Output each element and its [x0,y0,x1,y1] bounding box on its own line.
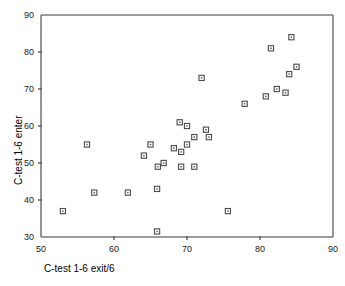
x-axis-ticks: 5060708090 [36,236,338,254]
marker-center [173,148,174,149]
data-point-marker [203,127,208,132]
y-tick-label: 30 [24,232,34,242]
marker-center [150,144,151,145]
scatter-chart-figure: 30405060708090 5060708090 C-test 1-6 ent… [0,0,345,286]
data-point-marker [184,142,189,147]
marker-center [289,74,290,75]
marker-center [285,92,286,93]
data-point-marker [283,90,288,95]
data-point-marker [263,94,268,99]
marker-center [296,66,297,67]
scatter-plot-canvas: 30405060708090 5060708090 C-test 1-6 ent… [0,0,345,286]
data-point-marker [287,72,292,77]
data-point-marker [289,35,294,40]
marker-center [180,151,181,152]
data-point-marker [92,190,97,195]
marker-center [156,188,157,189]
x-axis-title: C-test 1-6 exit/6 [44,263,115,274]
y-tick-label: 80 [24,47,34,57]
y-tick-label: 60 [24,121,34,131]
x-tick-label: 80 [255,244,265,254]
data-point-marker [268,46,273,51]
x-tick-label: 70 [182,244,192,254]
y-axis-title: C-test 1-6 enter [13,115,24,185]
marker-center [86,144,87,145]
data-point-marker [294,64,299,69]
data-point-marker [192,135,197,140]
data-point-marker [155,164,160,169]
data-point-marker [154,186,159,191]
marker-center [227,210,228,211]
data-point-marker [179,149,184,154]
data-point-marker [242,101,247,106]
data-point-marker [171,146,176,151]
data-point-marker [192,164,197,169]
data-point-group [60,35,299,234]
y-tick-label: 40 [24,195,34,205]
marker-center [244,103,245,104]
data-point-marker [154,229,159,234]
marker-center [291,37,292,38]
marker-center [208,136,209,137]
data-point-marker [84,142,89,147]
data-point-marker [206,135,211,140]
marker-center [62,210,63,211]
data-point-marker [179,164,184,169]
marker-center [194,136,195,137]
marker-center [194,166,195,167]
marker-center [180,166,181,167]
data-point-marker [177,120,182,125]
marker-center [205,129,206,130]
x-tick-label: 50 [36,244,46,254]
x-tick-label: 60 [109,244,119,254]
marker-center [157,166,158,167]
marker-center [143,155,144,156]
marker-center [265,96,266,97]
data-point-marker [161,160,166,165]
data-point-marker [60,209,65,214]
x-tick-label: 90 [328,244,338,254]
marker-center [94,192,95,193]
data-point-marker [125,190,130,195]
marker-center [179,122,180,123]
y-axis-ticks: 30405060708090 [24,10,42,242]
y-tick-label: 50 [24,158,34,168]
marker-center [163,162,164,163]
y-tick-label: 90 [24,10,34,20]
data-point-marker [199,75,204,80]
marker-center [270,48,271,49]
marker-center [127,192,128,193]
data-point-marker [184,123,189,128]
marker-center [186,125,187,126]
marker-center [201,77,202,78]
marker-center [186,144,187,145]
data-point-marker [274,86,279,91]
marker-center [276,88,277,89]
data-point-marker [225,209,230,214]
marker-center [156,231,157,232]
data-point-marker [141,153,146,158]
y-tick-label: 70 [24,84,34,94]
data-point-marker [148,142,153,147]
